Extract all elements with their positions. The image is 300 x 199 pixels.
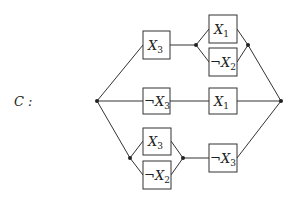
gate-bot-not-x3: ¬X3 [209,144,237,172]
bottom-split-node [128,156,132,160]
bottom-merge-node [181,156,185,160]
gate-mid-not-x3: ¬X3 [143,88,170,114]
gate-bot-x3: X3 [143,128,171,155]
gate-bot-not-x2: ¬X2 [143,161,171,189]
gate-top-x3: X3 [143,31,170,59]
switching-circuit-diagram: C : X3 X1 ¬X2 [0,0,300,199]
wires [97,29,281,175]
gate-top-x1: X1 [209,15,237,43]
output-node [279,99,283,103]
gate-mid-x1: X1 [209,88,237,114]
top-split-node [194,43,198,47]
gate-top-not-x2: ¬X2 [209,48,237,76]
input-node [95,99,99,103]
circuit-name-label: C : [14,94,32,109]
top-merge-node [246,43,250,47]
